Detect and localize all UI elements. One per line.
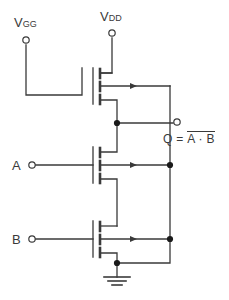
substrate-rail [117, 86, 170, 263]
transistor-a-body-arrow [130, 162, 137, 168]
vdd-label-subscript: DD [109, 13, 122, 23]
terminal-circles [23, 30, 180, 242]
vgg-label-subscript: GG [23, 19, 37, 29]
transistor-b [32, 221, 170, 263]
input-a-terminal-circle [29, 162, 35, 168]
transistor-b-body-arrow [130, 236, 137, 242]
input-b-terminal-circle [29, 236, 35, 242]
schematic-canvas: VGG VDD A B Q = A · B [0, 0, 229, 300]
output-terminal-circle [174, 119, 180, 125]
vdd-terminal-circle [109, 30, 115, 36]
ground-symbol [104, 263, 130, 285]
transistor-a [32, 123, 170, 226]
body-node-b-dot [167, 236, 173, 242]
vgg-supply-wire [26, 45, 82, 95]
circuit-schematic [0, 0, 229, 300]
load-transistor [93, 68, 170, 123]
output-label-expression: A · B [187, 131, 215, 145]
body-node-a-dot [167, 162, 173, 168]
input-a-label: A [12, 159, 21, 172]
output-node-dot [114, 120, 120, 126]
vgg-terminal-circle [23, 37, 29, 43]
load-transistor-body-arrow [130, 83, 137, 89]
vdd-label: VDD [100, 8, 122, 24]
vdd-label-base: V [100, 10, 109, 23]
output-label-prefix: Q = [163, 132, 187, 146]
output-label: Q = A · B [163, 130, 215, 146]
vgg-label-base: V [14, 16, 23, 29]
input-b-label: B [12, 233, 21, 246]
vdd-supply-wire [101, 38, 112, 73]
ground-node-dot [114, 260, 120, 266]
vgg-label: VGG [14, 14, 37, 30]
